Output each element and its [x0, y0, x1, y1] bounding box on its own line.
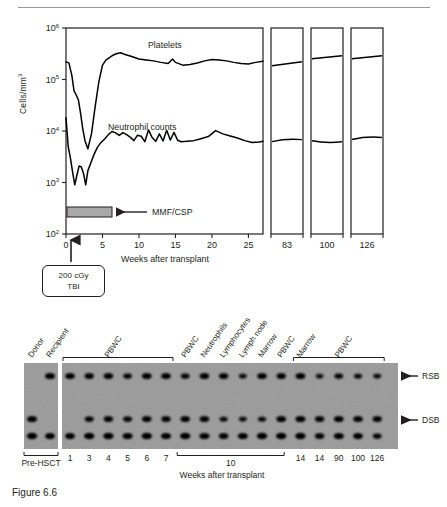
gel-header-label: PBWC [333, 334, 354, 359]
gel-band-core [143, 417, 151, 422]
break-panel-segments [272, 56, 382, 143]
gel-band-core [86, 417, 93, 422]
southern-blot-gel: DonorRecipientPBWCPBWCNeutrophilsLymphoc… [0, 300, 447, 480]
gel-lane-number: 7 [164, 453, 169, 463]
gel-band-core [316, 374, 322, 378]
tbi-label: TBI [43, 281, 104, 292]
gel-band-core [181, 434, 189, 439]
chart-svg: 106105104103102 0510152025 83100126 Plat… [0, 14, 447, 269]
svg-text:100: 100 [319, 240, 334, 250]
gel-band-core [296, 434, 304, 439]
gel-lane-number: 126 [370, 453, 384, 463]
gel-band-core [240, 374, 247, 378]
svg-text:103: 103 [46, 177, 60, 188]
gel-band-core [355, 374, 362, 378]
gel-lane-number: 6 [144, 453, 149, 463]
gel-band-core [240, 417, 247, 421]
panel-100-platelets [312, 56, 342, 59]
chart-x-axis-title: Weeks after transplant [121, 254, 209, 264]
gel-band-core [201, 417, 209, 422]
gel-band-core [124, 434, 132, 439]
data-curves [66, 53, 263, 185]
gel-band-core [105, 374, 113, 379]
gel-band-core [28, 417, 36, 422]
svg-text:5: 5 [100, 240, 105, 250]
x-axis-ticks: 0510152025 [63, 234, 253, 250]
mmf-csp-bar [67, 207, 112, 217]
platelets-annotation: Platelets [148, 40, 182, 50]
gel-svg: DonorRecipientPBWCPBWCNeutrophilsLymphoc… [0, 300, 447, 480]
svg-text:106: 106 [46, 23, 60, 34]
gel-band-core [277, 417, 285, 422]
gel-band-core [296, 417, 304, 422]
gel-band-core [374, 434, 381, 439]
gel-band-core [28, 434, 36, 439]
gel-header-label: PBWC [179, 334, 200, 359]
panel-83-neutrophils [272, 139, 302, 141]
gel-band-core [143, 434, 151, 439]
cell-counts-chart: Cells/mm3 106105104103102 0510152025 831… [0, 14, 447, 269]
gel-band-core [374, 374, 381, 378]
gel-bottom-brackets: Pre-HSCT10 [21, 452, 284, 468]
gel-band-core [46, 434, 54, 439]
svg-text:15: 15 [170, 240, 180, 250]
gel-lane-number: 4 [106, 453, 111, 463]
figure-caption: Figure 6.6 [12, 487, 57, 498]
svg-text:25: 25 [243, 240, 253, 250]
gel-header-label: Donor [26, 336, 46, 359]
gel-band-core [354, 434, 362, 439]
neutrophils-annotation: Neutrophil counts [108, 122, 177, 132]
break-panel-labels: 83100126 [271, 234, 383, 250]
gel-lane-number: 90 [334, 453, 344, 463]
svg-text:104: 104 [46, 126, 60, 137]
gel-band-core [278, 374, 285, 379]
gel-band-core [181, 417, 189, 422]
gel-band-core [162, 434, 170, 439]
gel-band-core [374, 417, 381, 422]
gel-band-core [220, 434, 228, 439]
gel-band-core [316, 434, 323, 439]
svg-text:126: 126 [359, 240, 374, 250]
gel-header-label: Recipient [44, 326, 71, 359]
tbi-dose: 200 cGy [43, 270, 104, 281]
gel-band-core [162, 417, 169, 422]
top-divider-rule [18, 7, 430, 8]
dsb-label: DSB [422, 415, 440, 425]
gel-band-core [259, 417, 266, 421]
gel-band-core [200, 434, 208, 439]
gel-bottom-bracket [24, 452, 58, 456]
gel-band-core [182, 374, 189, 379]
gel-band-core [335, 374, 342, 379]
gel-lane-number: 5 [125, 453, 130, 463]
svg-text:20: 20 [207, 240, 217, 250]
tbi-callout-box: 200 cGy TBI [42, 265, 105, 297]
gel-band-core [335, 434, 343, 439]
gel-band-core [201, 374, 209, 379]
gel-band-core [124, 417, 131, 422]
gel-band-core [104, 434, 112, 439]
gel-band-core [354, 417, 362, 422]
y-axis-ticks: 106105104103102 [46, 23, 66, 240]
gel-band-core [297, 374, 305, 379]
gel-header-label: PBWC [275, 334, 296, 359]
panel-126-platelets [352, 56, 382, 59]
gel-band-core [335, 417, 343, 422]
svg-text:83: 83 [282, 240, 292, 250]
week-10-label: 10 [226, 458, 236, 468]
panel-83-platelets [272, 62, 302, 66]
gel-band-core [46, 374, 54, 379]
panel-126-neutrophils [352, 137, 382, 139]
svg-text:102: 102 [46, 229, 60, 240]
gel-lane-number: 100 [351, 453, 365, 463]
gel-band-core [220, 374, 227, 379]
gel-top-bracket [63, 358, 173, 362]
gel-lane-number: 1 [68, 453, 73, 463]
gel-band-core [239, 434, 247, 439]
gel-header-label: PBWC [103, 334, 124, 359]
gel-band-core [105, 417, 112, 422]
gel-band-core [66, 434, 74, 439]
gel-band-core [220, 417, 227, 421]
gel-lane-number: 14 [296, 453, 306, 463]
gel-band-core [162, 374, 170, 379]
gel-band-core [277, 434, 285, 439]
